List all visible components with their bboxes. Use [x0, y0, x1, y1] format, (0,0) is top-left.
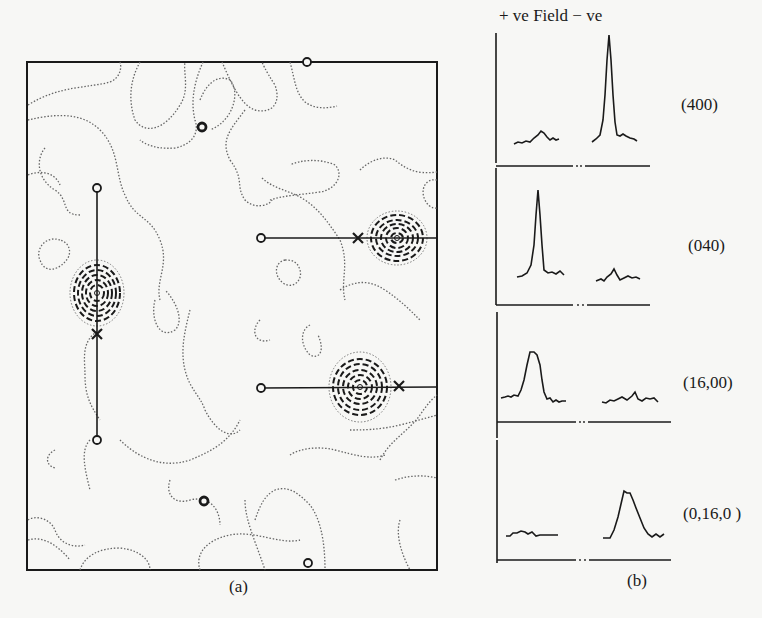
panel-a-caption: (a): [229, 577, 248, 597]
trace-01600-positive: [506, 531, 558, 536]
trace-1600-positive: [501, 352, 566, 402]
contour-lines: [28, 62, 437, 570]
trace-label-01600: (0,16,0 ): [683, 504, 741, 524]
trace-040-negative: [596, 269, 640, 281]
trace-040-positive: [517, 190, 564, 277]
panel-b-traces: [496, 33, 671, 563]
cross-markers: [92, 233, 404, 391]
trace-01600-negative: [603, 491, 664, 538]
figure-svg: [0, 0, 762, 618]
baselines: [496, 166, 671, 560]
vector-lines: [97, 188, 437, 440]
trace-1600-negative: [602, 392, 658, 403]
trace-400-positive: [514, 131, 559, 144]
figure: + ve Field − ve (400) (040) (16,00) (0,1…: [0, 0, 762, 618]
trace-label-400: (400): [681, 95, 718, 115]
trace-400-negative: [592, 35, 637, 142]
panel-a-map: [27, 58, 437, 570]
map-frame: [27, 62, 437, 570]
baseline-gap-dots: [576, 165, 586, 561]
panel-b-caption: (b): [627, 571, 647, 591]
trace-label-1600: (16,00): [683, 373, 733, 393]
panel-b-header: + ve Field − ve: [499, 6, 602, 26]
trace-label-040: (040): [688, 236, 725, 256]
circle-markers: [93, 58, 312, 567]
